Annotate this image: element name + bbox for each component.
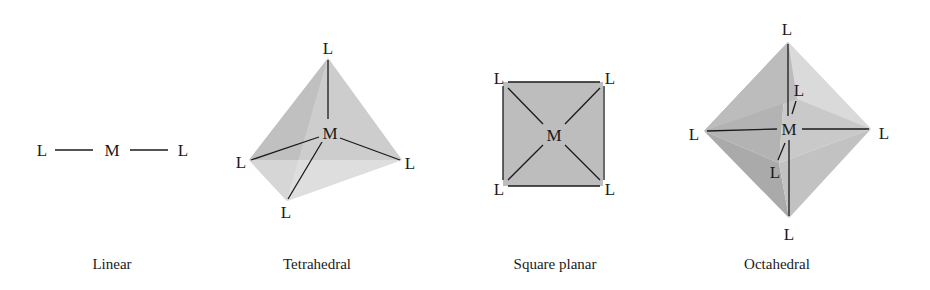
ligand-label: L [689,125,699,144]
ligand-label: L [236,153,246,172]
ligand-label: L [770,163,780,182]
metal-label: M [322,124,337,143]
ligand-label: L [794,81,804,100]
square-planar-geometry: L L M L L [494,69,615,199]
octahedral-geometry: L L L M L L L [689,20,889,244]
metal-label: M [781,120,796,139]
caption-linear: Linear [92,256,131,273]
caption-square-planar: Square planar [514,256,597,273]
metal-label: M [546,126,561,145]
geometry-diagrams: L M L L M L L L [0,0,930,290]
ligand-label: L [405,154,415,173]
metal-label: M [104,141,119,160]
ligand-label: L [281,203,291,222]
caption-octahedral: Octahedral [744,256,810,273]
linear-geometry: L M L [37,141,188,160]
ligand-label: L [605,180,615,199]
ligand-label: L [784,225,794,244]
ligand-label: L [37,141,47,160]
ligand-label: L [879,124,889,143]
caption-tetrahedral: Tetrahedral [283,256,351,273]
tetrahedron-face-back [249,58,402,160]
ligand-label: L [178,141,188,160]
tetrahedron-face-bottom [249,160,402,201]
tetrahedral-geometry: L M L L L [236,39,415,222]
ligand-label: L [605,69,615,88]
ligand-label: L [782,20,792,39]
coordination-geometry-figure: L M L L M L L L [0,0,930,290]
ligand-label: L [494,180,504,199]
ligand-label: L [323,39,333,58]
ligand-label: L [494,69,504,88]
